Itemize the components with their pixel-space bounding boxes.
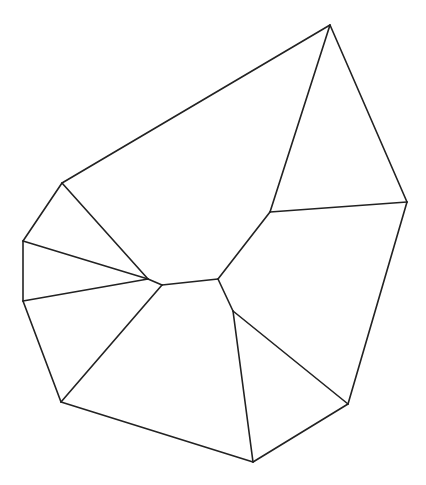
edge-I-B <box>270 202 407 212</box>
edge-D-E <box>61 402 253 462</box>
edge-G-L <box>23 241 148 279</box>
edge-H-A <box>62 25 330 183</box>
edge-B-C <box>348 202 407 404</box>
edge-J-M <box>218 279 233 311</box>
edge-C-D <box>253 404 348 462</box>
edge-group <box>23 25 407 462</box>
planar-graph-diagram <box>0 0 426 485</box>
edge-E-F <box>23 301 61 402</box>
edge-G-H <box>23 183 62 241</box>
edge-A-I <box>270 25 330 212</box>
edge-A-B <box>330 25 407 202</box>
diagram-canvas <box>0 0 426 485</box>
edge-K-E <box>61 285 162 402</box>
edge-F-L <box>23 279 148 301</box>
edge-M-D <box>233 311 253 462</box>
edge-K-L <box>148 279 162 285</box>
edge-H-L <box>62 183 148 279</box>
edge-M-C <box>233 311 348 404</box>
edge-J-K <box>162 279 218 285</box>
edge-I-J <box>218 212 270 279</box>
